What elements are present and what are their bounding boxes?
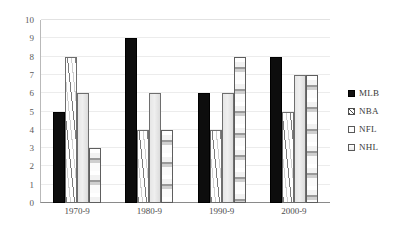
bar-nhl-1980-9[interactable] — [161, 130, 173, 203]
y-axis-tick-label: 6 — [6, 89, 34, 98]
bar-group-2000-9 — [258, 20, 330, 203]
legend-item-nhl[interactable]: NHL — [348, 138, 396, 156]
bar-slot — [65, 20, 77, 203]
bar-slot — [222, 20, 234, 203]
bar-nfl-2000-9[interactable] — [294, 75, 306, 203]
bar-slot — [125, 20, 137, 203]
chart-legend: MLBNBANFLNHL — [348, 84, 396, 156]
legend-item-nfl[interactable]: NFL — [348, 120, 396, 138]
y-axis-tick-label: 9 — [6, 34, 34, 43]
bar-slot — [198, 20, 210, 203]
bar-nfl-1980-9[interactable] — [149, 93, 161, 203]
legend-item-mlb[interactable]: MLB — [348, 84, 396, 102]
bar-group-1990-9 — [186, 20, 258, 203]
bar-slot — [294, 20, 306, 203]
bar-nba-1990-9[interactable] — [210, 130, 222, 203]
legend-item-label: MLB — [359, 88, 379, 98]
bar-slot — [282, 20, 294, 203]
bar-nba-1980-9[interactable] — [137, 130, 149, 203]
bar-mlb-1990-9[interactable] — [198, 93, 210, 203]
legend-item-label: NHL — [359, 142, 378, 152]
legend-item-label: NBA — [359, 106, 379, 116]
bar-groups — [41, 20, 330, 203]
bar-slot — [210, 20, 222, 203]
bar-slot — [270, 20, 282, 203]
y-axis-tick-label: 5 — [6, 107, 34, 116]
y-axis-tick-label: 4 — [6, 125, 34, 134]
bar-slot — [89, 20, 101, 203]
bar-slot — [77, 20, 89, 203]
legend-item-label: NFL — [359, 124, 377, 134]
x-axis: 1970-91980-91990-92000-9 — [41, 206, 330, 216]
x-axis-tick-label: 1990-9 — [186, 206, 258, 216]
bar-slot — [234, 20, 246, 203]
bar-mlb-1970-9[interactable] — [53, 112, 65, 204]
bar-group-1980-9 — [113, 20, 185, 203]
legend-swatch-icon — [348, 90, 355, 97]
bar-nba-2000-9[interactable] — [282, 112, 294, 204]
y-axis-tick-label: 10 — [6, 16, 34, 25]
x-axis-tick-label: 1970-9 — [41, 206, 113, 216]
y-axis-tick-label: 3 — [6, 144, 34, 153]
y-axis-tick-label: 1 — [6, 180, 34, 189]
x-axis-tick-label: 2000-9 — [258, 206, 330, 216]
bar-chart: 109876543210 1970-91980-91990-92000-9 ML… — [0, 0, 399, 240]
legend-swatch-icon — [348, 126, 355, 133]
bar-nhl-1970-9[interactable] — [89, 148, 101, 203]
legend-swatch-icon — [348, 108, 355, 115]
bar-mlb-1980-9[interactable] — [125, 38, 137, 203]
y-axis-tick-label: 2 — [6, 162, 34, 171]
bar-slot — [161, 20, 173, 203]
y-axis: 109876543210 — [0, 20, 34, 203]
bar-nfl-1970-9[interactable] — [77, 93, 89, 203]
bar-nfl-1990-9[interactable] — [222, 93, 234, 203]
y-axis-tick-label: 0 — [6, 199, 34, 208]
x-axis-tick-label: 1980-9 — [113, 206, 185, 216]
bar-nba-1970-9[interactable] — [65, 57, 77, 203]
legend-swatch-icon — [348, 144, 355, 151]
bar-slot — [53, 20, 65, 203]
y-axis-tick-label: 8 — [6, 52, 34, 61]
bar-nhl-1990-9[interactable] — [234, 57, 246, 203]
bar-nhl-2000-9[interactable] — [306, 75, 318, 203]
y-axis-tick-label: 7 — [6, 70, 34, 79]
bar-mlb-2000-9[interactable] — [270, 57, 282, 203]
bar-group-1970-9 — [41, 20, 113, 203]
legend-item-nba[interactable]: NBA — [348, 102, 396, 120]
bar-slot — [137, 20, 149, 203]
bar-slot — [149, 20, 161, 203]
bar-slot — [306, 20, 318, 203]
